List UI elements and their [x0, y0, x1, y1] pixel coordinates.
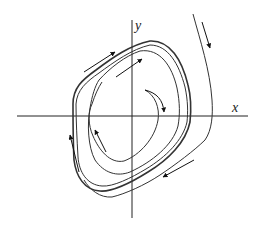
- arrow-center: [145, 90, 164, 112]
- x-axis-label: x: [231, 100, 239, 115]
- y-axis-label: y: [133, 18, 142, 33]
- arrow-upper-right: [202, 22, 210, 48]
- inner-spiral: [89, 82, 158, 161]
- phase-portrait: x y: [0, 0, 258, 226]
